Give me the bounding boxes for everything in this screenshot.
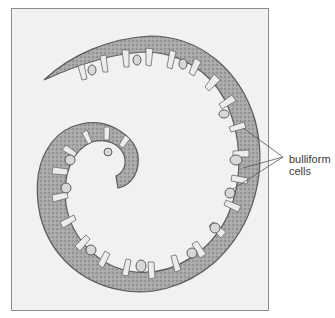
label-line-2: cells [289,165,331,177]
bulliform-cells-label: bulliform cells [289,153,331,177]
leaf-cross-section-image [0,0,335,318]
label-line-1: bulliform [289,153,331,165]
